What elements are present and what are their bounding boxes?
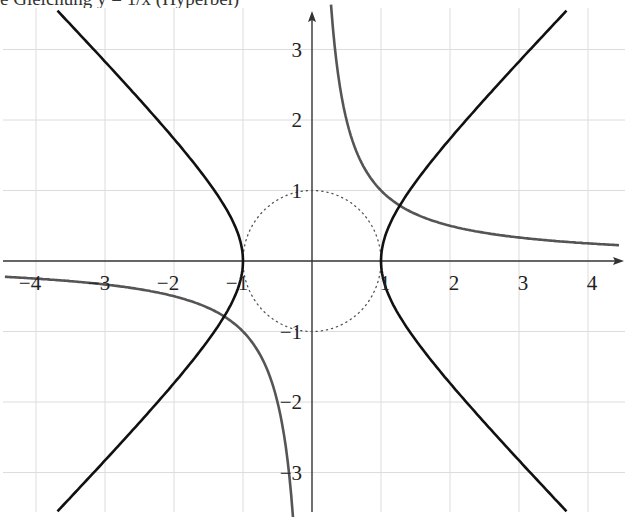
axes (3, 11, 624, 512)
x-tick-label: −4 (19, 271, 42, 295)
y-tick-label: −1 (280, 320, 302, 344)
y-tick-label: −3 (280, 461, 302, 485)
x-tick-label: 2 (449, 271, 460, 295)
y-tick-label: 3 (292, 38, 303, 62)
x-tick-label: −3 (88, 271, 110, 295)
plot-area: −4−3−2−11234−3−2−1123 (0, 0, 631, 517)
y-tick-label: 1 (292, 179, 303, 203)
reciprocal-curve-right (331, 5, 619, 246)
x-tick-label: 3 (518, 271, 529, 295)
x-tick-label: −1 (226, 271, 248, 295)
grid-lines (3, 8, 625, 512)
x-tick-label: 1 (380, 271, 391, 295)
reciprocal-curve-left (5, 277, 293, 517)
y-tick-label: 2 (292, 108, 303, 132)
y-tick-label: −2 (280, 390, 302, 414)
x-tick-label: −2 (157, 271, 179, 295)
x-tick-label: 4 (587, 271, 598, 295)
